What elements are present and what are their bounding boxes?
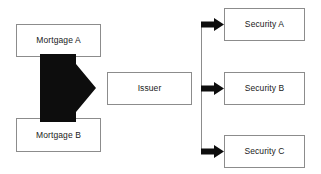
node-security-c-label: Security C (244, 147, 284, 156)
node-mortgage-b: Mortgage B (16, 118, 101, 152)
pooling-arrow-shape (40, 54, 96, 122)
diagram-canvas: Mortgage A Mortgage B Issuer Security A … (0, 0, 321, 174)
node-security-b: Security B (224, 72, 305, 105)
node-security-a: Security A (224, 8, 305, 41)
distribution-arrow-b-icon (201, 82, 224, 95)
node-mortgage-b-label: Mortgage B (36, 131, 81, 140)
node-security-a-label: Security A (245, 20, 284, 29)
node-security-c: Security C (224, 135, 305, 168)
node-mortgage-a: Mortgage A (16, 24, 101, 57)
distribution-arrow-c-icon (201, 145, 224, 158)
pooling-arrow-icon (40, 54, 98, 122)
node-issuer-label: Issuer (138, 84, 162, 93)
node-mortgage-a-label: Mortgage A (36, 36, 80, 45)
distribution-arrow-a-icon (201, 18, 224, 31)
node-security-b-label: Security B (245, 84, 285, 93)
node-issuer: Issuer (107, 72, 192, 105)
